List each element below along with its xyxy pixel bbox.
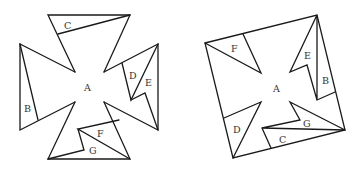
cross-figure: C A B D E F G [20,15,158,159]
label-g: G [89,145,97,156]
label-a: A [83,82,91,93]
label-g: G [303,118,311,129]
top-arm-outline [48,15,130,72]
square-figure: F E A B D G C [205,15,345,158]
left-arm-outline [20,44,75,130]
label-b: B [322,75,329,86]
label-e: E [145,77,152,88]
piece-g-notch [48,129,84,159]
piece-c-divider [262,128,271,148]
label-e: E [304,50,311,61]
label-a: A [272,83,280,94]
label-c: C [279,134,286,145]
label-d: D [129,70,137,81]
label-b: B [24,103,31,114]
piece-f-g-divider [78,120,130,159]
piece-e-notch [131,93,158,130]
label-c: C [64,20,71,31]
piece-d-divider [224,102,261,158]
label-f: F [97,128,104,139]
piece-b-divider [317,92,335,100]
label-d: D [233,124,241,135]
dissection-diagram: C A B D E F G F E A B D G C [0,0,363,172]
label-f: F [231,43,238,54]
piece-d-e-divider [122,44,158,100]
